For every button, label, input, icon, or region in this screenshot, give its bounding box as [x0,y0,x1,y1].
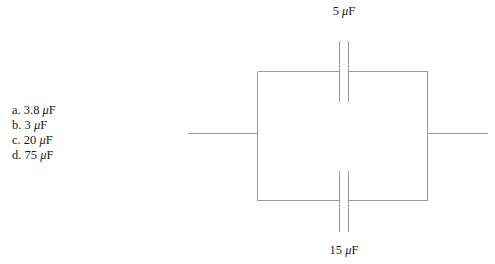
farad-unit: F [348,4,355,18]
bottom-capacitor-label: 15 μF [296,243,392,257]
top-capacitor-label: 5 μF [296,4,392,18]
top-capacitor-value: 5 [333,4,339,18]
parallel-capacitor-circuit-diagram [0,0,495,264]
circuit-svg [0,0,495,264]
screenshot-canvas: . a. 3.8 μF b. 3 μF c. 20 μF d. 75 μF [0,0,495,264]
farad-unit: F [351,243,358,257]
bottom-capacitor-value: 15 [330,243,343,257]
